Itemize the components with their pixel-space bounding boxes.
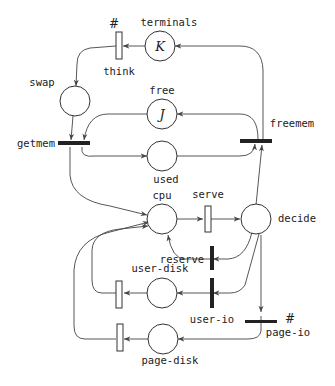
arc-decide-reserve bbox=[213, 232, 252, 259]
place-label: page-disk bbox=[142, 354, 200, 366]
place-terminals: K terminals bbox=[141, 16, 198, 61]
priority-marker: # bbox=[285, 312, 295, 326]
arc-freemem-terminals bbox=[175, 46, 263, 139]
transition-page-disk-done bbox=[117, 324, 123, 351]
arc-swap-getmem bbox=[71, 116, 73, 140]
place-page-disk: page-disk bbox=[142, 324, 200, 366]
place-used: used bbox=[147, 141, 179, 185]
place-label: used bbox=[153, 173, 178, 185]
place-cpu: cpu bbox=[147, 189, 177, 234]
transition-user-disk-done bbox=[116, 281, 122, 308]
transition-serve: serve bbox=[192, 188, 224, 232]
transition-label: think bbox=[103, 65, 135, 77]
transition-page-io: # page-io bbox=[245, 312, 310, 338]
priority-marker: # bbox=[109, 17, 119, 31]
place-free: J free bbox=[147, 84, 177, 129]
arc-getmem-used bbox=[82, 147, 147, 156]
place-label: terminals bbox=[141, 16, 198, 28]
arc-freemem-free bbox=[177, 114, 258, 139]
arc-pagedisk-done-cpu bbox=[74, 222, 149, 339]
place-label: decide bbox=[278, 212, 316, 224]
transition-freemem: freemem bbox=[240, 117, 314, 143]
arc-free-getmem bbox=[84, 114, 147, 140]
petri-net-diagram: K terminals swap J free used cpu decide … bbox=[0, 0, 335, 386]
transition-label: freemem bbox=[270, 117, 314, 129]
transition-user-io: user-io bbox=[190, 278, 234, 325]
transition-label: page-io bbox=[266, 326, 310, 338]
transition-label: user-io bbox=[190, 313, 234, 325]
arc-used-freemem bbox=[177, 144, 255, 156]
token-count: K bbox=[154, 39, 166, 54]
transition-label: getmem bbox=[17, 137, 55, 149]
place-label: swap bbox=[29, 76, 54, 88]
transition-label: serve bbox=[192, 188, 224, 200]
transition-getmem: getmem bbox=[17, 137, 90, 149]
place-label: free bbox=[149, 84, 174, 96]
transition-label: reserve bbox=[160, 253, 204, 265]
place-user-disk: user-disk bbox=[132, 262, 190, 308]
arc-decide-userio bbox=[213, 234, 259, 293]
place-decide: decide bbox=[241, 204, 316, 234]
place-label: cpu bbox=[153, 189, 172, 201]
arc-getmem-cpu bbox=[70, 147, 147, 215]
arc-decide-freemem bbox=[256, 145, 262, 205]
place-swap: swap bbox=[29, 76, 90, 116]
